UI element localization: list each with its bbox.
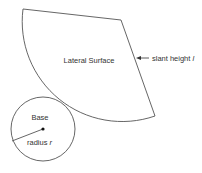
radius-label: radius r	[27, 138, 53, 147]
lateral-surface-label: Lateral Surface	[64, 56, 115, 65]
lateral-surface-sector	[22, 9, 155, 122]
base-label: Base	[31, 113, 48, 122]
center-dot	[41, 127, 44, 130]
slant-height-label: slant height l	[152, 54, 194, 63]
slant-height-arrow	[136, 56, 149, 60]
cone-net-diagram: Lateral Surface slant height l Base radi…	[0, 0, 202, 173]
